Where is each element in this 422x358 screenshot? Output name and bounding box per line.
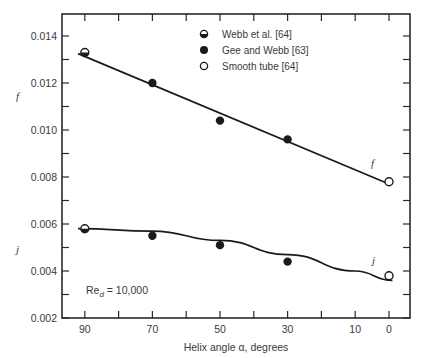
y-tick-label: 0.006 — [31, 218, 57, 230]
data-point-open-icon — [385, 272, 393, 280]
x-tick-label: 50 — [214, 323, 226, 335]
x-axis-title: Helix angle α, degrees — [184, 341, 289, 353]
chart: 90705030100 0.0140.0120.0100.0080.0060.0… — [0, 0, 422, 358]
fit-curve-j — [78, 229, 392, 281]
legend: Webb et al. [64] Gee and Webb [63] Smoot… — [200, 29, 309, 72]
x-tick-label: 10 — [349, 323, 361, 335]
data-point-filled-icon — [148, 79, 156, 87]
x-tick-label: 70 — [147, 323, 159, 335]
y-axis-label-f: f — [16, 90, 21, 102]
legend-label-webb: Webb et al. [64] — [222, 29, 292, 40]
y-tick-label: 0.010 — [31, 124, 57, 136]
curve-label-j: j — [370, 254, 375, 266]
y-tick-label: 0.014 — [31, 30, 57, 42]
data-point-filled-icon — [148, 232, 156, 240]
data-point-filled-icon — [216, 241, 224, 249]
y-axis-ticks: 0.0140.0120.0100.0080.0060.0040.002 — [31, 30, 410, 324]
fit-curve-f — [78, 54, 389, 184]
x-tick-label: 90 — [79, 323, 91, 335]
x-tick-label: 30 — [282, 323, 294, 335]
legend-label-smooth-tube: Smooth tube [64] — [222, 61, 298, 72]
data-point-half-filled-icon — [81, 48, 89, 56]
data-points — [81, 48, 393, 279]
y-tick-label: 0.002 — [31, 312, 57, 324]
legend-marker-half-filled-icon — [200, 30, 207, 37]
data-point-filled-icon — [283, 257, 291, 265]
y-tick-label: 0.004 — [31, 265, 57, 277]
plot-frame — [62, 14, 410, 318]
data-point-filled-icon — [283, 135, 291, 143]
legend-marker-filled-icon — [200, 46, 208, 54]
y-tick-label: 0.012 — [31, 77, 57, 89]
x-tick-label: 0 — [386, 323, 392, 335]
legend-marker-open-icon — [200, 62, 207, 69]
data-point-filled-icon — [216, 116, 224, 124]
fit-curves — [78, 54, 392, 281]
y-tick-label: 0.008 — [31, 171, 57, 183]
data-point-half-filled-icon — [81, 225, 89, 233]
curve-label-f: f — [371, 157, 376, 169]
legend-label-gee-webb: Gee and Webb [63] — [222, 45, 309, 56]
y-axis-label-j: j — [14, 243, 19, 255]
reynolds-annotation: Red = 10,000 — [86, 284, 148, 299]
data-point-open-icon — [385, 178, 393, 186]
